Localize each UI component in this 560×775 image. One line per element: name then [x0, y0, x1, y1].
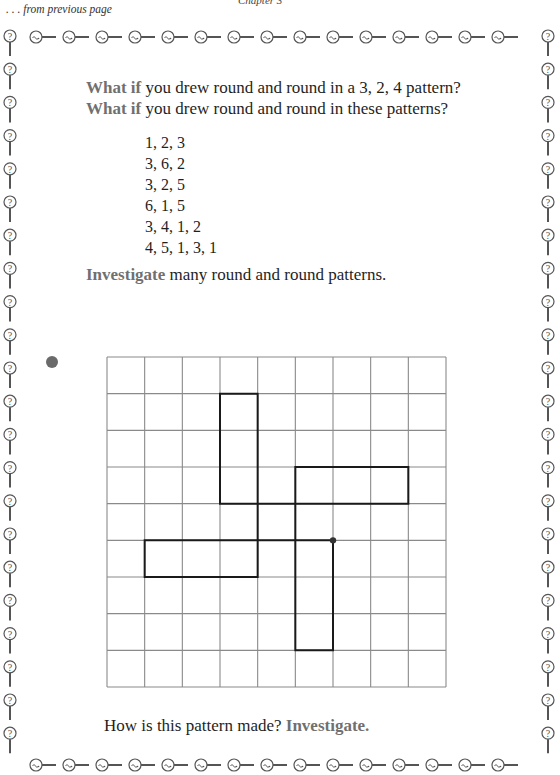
line-text: How is this pattern made?	[104, 716, 286, 735]
question-line: How is this pattern made? Investigate.	[104, 716, 369, 736]
keyword: Investigate.	[286, 716, 370, 735]
grid-figure	[0, 0, 560, 775]
